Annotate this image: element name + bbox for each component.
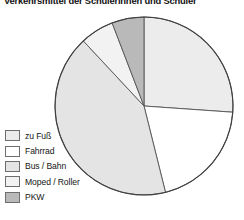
legend-swatch-fahrrad <box>5 146 20 157</box>
legend-item-label: zu Fuß <box>25 131 51 141</box>
legend-item-label: Bus / Bahn <box>25 161 66 171</box>
legend-swatch-pkw <box>5 192 20 203</box>
chart-legend: zu FußFahrradBus / BahnMoped / RollerPKW <box>5 128 117 205</box>
pie-chart-figure: Verkehrsmittel der Schülerinnen und Schü… <box>0 0 244 220</box>
legend-item-label: Fahrrad <box>25 146 55 156</box>
legend-swatch-zu-fuss <box>5 130 20 141</box>
pie-slice <box>144 17 233 112</box>
legend-item: Fahrrad <box>5 143 117 158</box>
legend-item: zu Fuß <box>5 128 117 143</box>
legend-item: Moped / Roller <box>5 174 117 189</box>
legend-swatch-moped-roller <box>5 176 20 187</box>
legend-item: PKW <box>5 190 117 205</box>
legend-item-label: Moped / Roller <box>25 177 80 187</box>
legend-swatch-bus-bahn <box>5 161 20 172</box>
legend-item: Bus / Bahn <box>5 159 117 174</box>
legend-item-label: PKW <box>25 192 44 202</box>
